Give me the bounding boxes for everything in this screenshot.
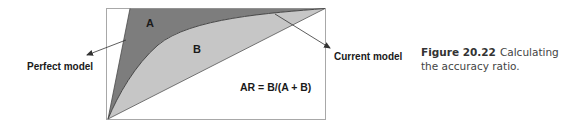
region-b-label: B [193, 43, 201, 55]
accuracy-ratio-formula: AR = B/(A + B) [240, 81, 311, 93]
perfect-model-label: Perfect model [27, 61, 93, 72]
figure-number: Figure 20.22 [421, 46, 496, 58]
figure-caption: Figure 20.22Calculating the accuracy rat… [421, 45, 561, 73]
region-a-label: A [146, 17, 154, 29]
current-model-label: Current model [334, 51, 403, 62]
